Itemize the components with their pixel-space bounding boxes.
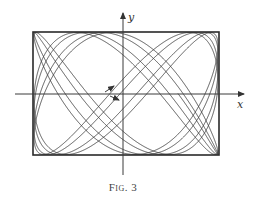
y-axis-label: y [127, 11, 135, 24]
lissajous-figure: x y Fig. 3 [0, 0, 264, 201]
x-axis-label: x [237, 98, 244, 111]
figure-caption: Fig. 3 [109, 181, 138, 193]
